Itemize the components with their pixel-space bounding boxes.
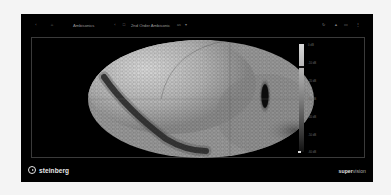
module-name[interactable]: Ambisonics — [73, 23, 94, 28]
ambisonics-heatmap[interactable] — [86, 39, 316, 160]
scale-label: -60 dB — [308, 150, 316, 154]
brand-name: steinberg — [39, 167, 69, 174]
scale-label: 0 dB — [308, 43, 314, 47]
hold-icon[interactable]: ▲ — [334, 23, 338, 27]
color-scale-peak-marker — [299, 66, 304, 68]
color-scale-bar — [299, 44, 304, 152]
format-dropdown-suffix: as — [177, 23, 181, 27]
supervision-plugin-window: ‹ ⌂ Ambisonics ‹ □ 2nd Order Ambisonic a… — [21, 14, 373, 182]
product-logo: supervision — [339, 168, 366, 174]
chevron-down-icon[interactable]: ▾ — [185, 23, 187, 27]
steinberg-logo: steinberg — [28, 166, 69, 174]
scale-label: -40 dB — [308, 115, 316, 119]
scale-label: -10 dB — [308, 61, 316, 65]
more-icon[interactable]: ⋮ — [356, 23, 360, 27]
steinberg-play-icon — [28, 166, 36, 174]
layout-icon[interactable]: ▭ — [344, 23, 348, 27]
toolbar: ‹ ⌂ Ambisonics ‹ □ 2nd Order Ambisonic a… — [21, 14, 373, 36]
channel-format-icon[interactable]: □ — [122, 23, 126, 27]
reset-icon[interactable]: ↻ — [321, 23, 325, 27]
format-dropdown[interactable]: 2nd Order Ambisonic — [131, 23, 170, 28]
scale-label: -50 dB — [308, 133, 316, 137]
scale-label: -30 dB — [308, 97, 316, 101]
footer: steinberg supervision — [21, 162, 373, 182]
color-scale-threshold-handle[interactable] — [298, 151, 301, 153]
product-name-bold: super — [339, 168, 353, 174]
back-icon[interactable]: ‹ — [34, 23, 38, 27]
scale-label: -20 dB — [308, 79, 316, 83]
module-dropdown-arrow-icon[interactable]: ‹ — [113, 23, 117, 27]
product-name-light: vision — [353, 168, 366, 174]
pin-icon[interactable]: ⌂ — [50, 23, 54, 27]
